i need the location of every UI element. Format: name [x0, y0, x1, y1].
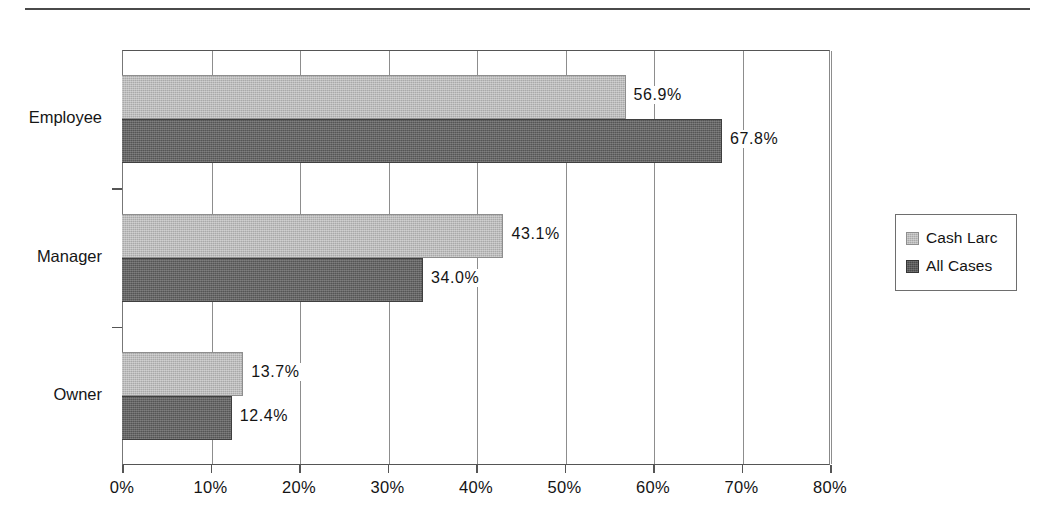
- x-axis-tick: [122, 465, 124, 473]
- x-axis-tick: [476, 465, 478, 473]
- chart-legend: Cash Larc All Cases: [895, 214, 1017, 291]
- gridline: [831, 51, 832, 464]
- bar-manager-cash-larc: [122, 214, 503, 258]
- bar-employee-all-cases: [122, 119, 722, 163]
- y-axis-category-label: Manager: [0, 247, 112, 266]
- bar-value-label: 34.0%: [429, 269, 481, 287]
- y-axis-tick: [112, 327, 122, 329]
- x-axis-tick-label: 10%: [194, 478, 228, 497]
- bar-value-label: 43.1%: [509, 225, 561, 243]
- legend-label-cash-larc: Cash Larc: [926, 229, 998, 247]
- legend-label-all-cases: All Cases: [926, 257, 992, 275]
- bar-value-label: 67.8%: [728, 130, 780, 148]
- bar-owner-all-cases: [122, 396, 232, 440]
- bar-owner-cash-larc: [122, 352, 243, 396]
- gridline: [743, 51, 744, 464]
- y-axis-category-label: Owner: [0, 385, 112, 404]
- x-axis-tick-label: 0%: [110, 478, 134, 497]
- x-axis-tick-label: 70%: [725, 478, 759, 497]
- legend-item-cash-larc: Cash Larc: [906, 224, 1016, 252]
- bar-value-label: 56.9%: [632, 86, 684, 104]
- bar-manager-all-cases: [122, 258, 423, 302]
- legend-swatch-all-cases: [906, 260, 919, 273]
- gridline: [654, 51, 655, 464]
- x-axis-tick: [299, 465, 301, 473]
- x-axis-tick: [211, 465, 213, 473]
- x-axis-tick-label: 20%: [282, 478, 316, 497]
- x-axis-tick-label: 50%: [548, 478, 582, 497]
- bar-employee-cash-larc: [122, 75, 626, 119]
- x-axis-tick: [742, 465, 744, 473]
- legend-swatch-cash-larc: [906, 232, 919, 245]
- x-axis-tick: [653, 465, 655, 473]
- x-axis-tick-label: 40%: [459, 478, 493, 497]
- bar-chart-figure: Cash Larc All Cases 0%10%20%30%40%50%60%…: [0, 0, 1050, 526]
- x-axis-tick: [830, 465, 832, 473]
- x-axis-tick: [565, 465, 567, 473]
- bar-value-label: 13.7%: [249, 363, 301, 381]
- x-axis-tick-label: 30%: [371, 478, 405, 497]
- y-axis-tick: [112, 188, 122, 190]
- legend-item-all-cases: All Cases: [906, 252, 1016, 280]
- x-axis-tick-label: 80%: [813, 478, 847, 497]
- x-axis-tick: [388, 465, 390, 473]
- y-axis-category-label: Employee: [0, 108, 112, 127]
- x-axis-tick-label: 60%: [636, 478, 670, 497]
- bar-value-label: 12.4%: [238, 407, 290, 425]
